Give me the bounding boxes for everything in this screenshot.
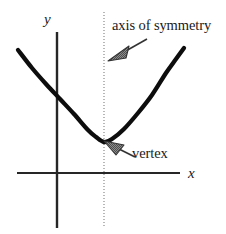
vertex-arrow: [104, 141, 135, 157]
x-axis-label: x: [188, 166, 195, 181]
y-axis-label: y: [44, 12, 51, 27]
vertex-label: vertex: [132, 146, 168, 161]
axis-of-symmetry-arrow: [108, 39, 147, 61]
parabola-curve: [18, 48, 184, 142]
axis-of-symmetry-arrow-head: [108, 46, 129, 61]
axis-of-symmetry-label: axis of symmetry: [112, 18, 211, 33]
vertex-arrow-head: [104, 141, 124, 155]
parabola-figure: axis of symmetry vertex y x: [0, 0, 226, 234]
figure-canvas: [0, 0, 226, 234]
